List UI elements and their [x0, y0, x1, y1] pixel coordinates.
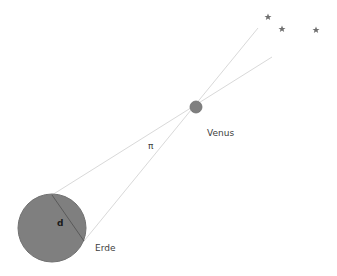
parallax-diagram	[0, 0, 337, 276]
venus-label: Venus	[207, 129, 234, 138]
star-icon	[313, 26, 320, 33]
star-icon	[265, 13, 272, 20]
sight-line-upper	[52, 57, 272, 195]
venus-circle	[190, 101, 202, 113]
distance-label: d	[57, 219, 63, 228]
parallax-angle-label: π	[148, 142, 153, 151]
star-icon	[279, 25, 286, 32]
earth-circle	[18, 194, 86, 262]
earth-label: Erde	[95, 244, 115, 253]
